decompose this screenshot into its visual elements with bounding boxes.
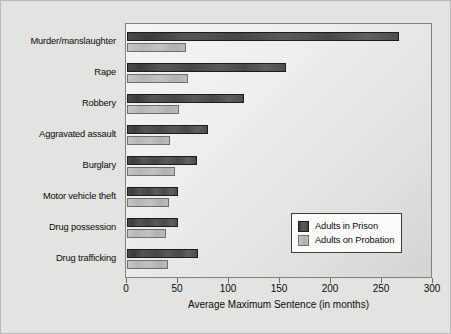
- category-axis-labels: Murder/manslaughterRapeRobberyAggravated…: [7, 25, 121, 273]
- bar-prison: [127, 125, 208, 134]
- chart-figure: Murder/manslaughterRapeRobberyAggravated…: [0, 0, 451, 334]
- bar-prison: [127, 187, 178, 196]
- bar-prison: [127, 218, 178, 227]
- legend-item-probation: Adults on Probation: [298, 233, 394, 247]
- bar-prison: [127, 32, 399, 41]
- bar-group: [127, 182, 431, 213]
- category-label: Drug possession: [7, 211, 121, 242]
- bar-group: [127, 57, 431, 88]
- category-label: Murder/manslaughter: [7, 25, 121, 56]
- bar-group: [127, 26, 431, 57]
- category-label: Motor vehicle theft: [7, 180, 121, 211]
- bar-probation: [127, 229, 166, 238]
- bar-probation: [127, 74, 188, 83]
- x-tick-label: 50: [171, 283, 182, 294]
- chart-legend: Adults in Prison Adults on Probation: [291, 213, 402, 253]
- x-tick-label: 300: [424, 283, 441, 294]
- legend-swatch-prison-icon: [298, 221, 309, 232]
- legend-item-prison: Adults in Prison: [298, 219, 394, 233]
- x-axis-tick-labels: 050100150200250300: [125, 283, 432, 296]
- x-tick-label: 0: [123, 283, 129, 294]
- x-tick-label: 100: [220, 283, 237, 294]
- bar-group: [127, 119, 431, 150]
- bar-group: [127, 88, 431, 119]
- category-label: Robbery: [7, 87, 121, 118]
- x-axis-title: Average Maximum Sentence (in months): [125, 299, 432, 310]
- bar-probation: [127, 105, 179, 114]
- bar-probation: [127, 260, 168, 269]
- bar-probation: [127, 167, 175, 176]
- legend-label-probation: Adults on Probation: [315, 235, 394, 245]
- category-label: Burglary: [7, 149, 121, 180]
- bar-group: [127, 151, 431, 182]
- bar-prison: [127, 249, 198, 258]
- bar-prison: [127, 94, 244, 103]
- category-label: Rape: [7, 56, 121, 87]
- legend-swatch-probation-icon: [298, 235, 309, 246]
- bar-probation: [127, 43, 186, 52]
- x-tick-label: 150: [271, 283, 288, 294]
- x-tick-label: 250: [373, 283, 390, 294]
- bar-probation: [127, 198, 169, 207]
- category-label: Drug trafficking: [7, 242, 121, 273]
- bar-prison: [127, 156, 197, 165]
- bar-prison: [127, 63, 286, 72]
- bar-probation: [127, 136, 170, 145]
- legend-label-prison: Adults in Prison: [315, 221, 378, 231]
- x-tick-label: 200: [322, 283, 339, 294]
- category-label: Aggravated assault: [7, 118, 121, 149]
